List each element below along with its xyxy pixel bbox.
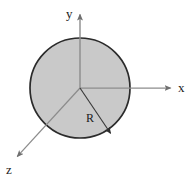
sphere-diagram-svg bbox=[0, 0, 190, 184]
figure-container: y x z R bbox=[0, 0, 190, 184]
z-axis-label: z bbox=[6, 163, 12, 176]
x-axis-label: x bbox=[178, 81, 185, 94]
radius-label: R bbox=[86, 112, 94, 124]
y-axis-label: y bbox=[66, 7, 73, 20]
